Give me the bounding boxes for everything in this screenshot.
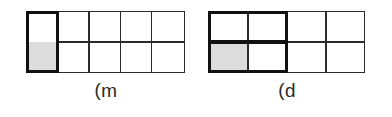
figure-a-caption: ɯ) bbox=[26, 84, 185, 103]
figure-b-emphasis-divider bbox=[208, 40, 288, 43]
figure-b: p) bbox=[208, 0, 366, 117]
figure-b-grid bbox=[208, 11, 365, 73]
figure-sheet: ɯ) p) bbox=[0, 0, 392, 117]
figure-a-emphasis-box bbox=[26, 11, 59, 73]
figure-b-caption: p) bbox=[208, 84, 365, 103]
figure-a-grid bbox=[26, 11, 185, 73]
figure-a: ɯ) bbox=[26, 0, 186, 117]
